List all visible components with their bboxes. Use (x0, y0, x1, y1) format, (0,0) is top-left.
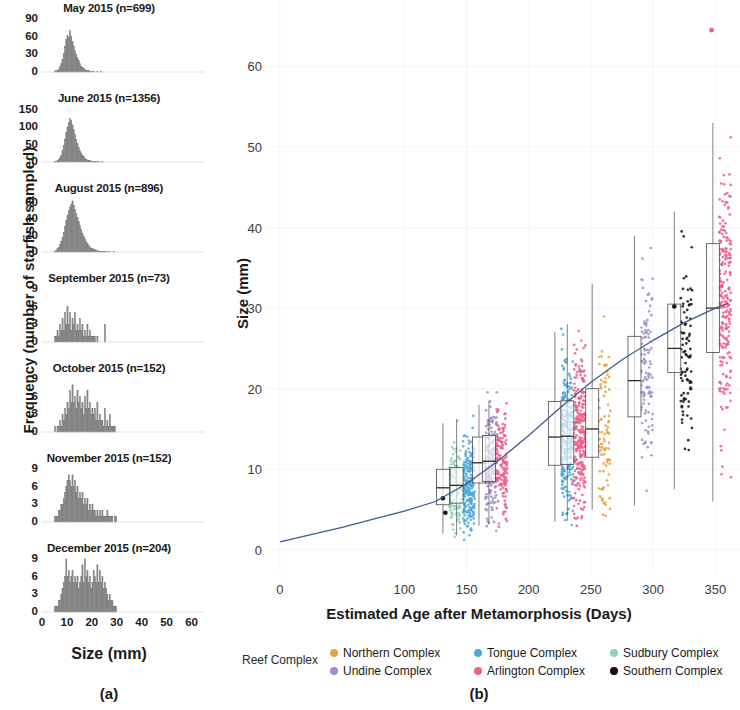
histogram-y-tick: 6 (32, 571, 38, 583)
histogram-y-tick: 3 (32, 408, 38, 420)
histogram-y-tick: 9 (32, 373, 38, 385)
histogram-y-tick: 60 (25, 31, 38, 43)
histogram-x-tick: 10 (61, 616, 74, 628)
histogram-y-tick: 20 (25, 230, 38, 242)
histogram-y-tick: 9 (32, 283, 38, 295)
histogram-bars (42, 466, 204, 524)
panel-b-x-axis-label: Estimated Age after Metamorphosis (Days) (218, 605, 740, 622)
histogram-y-ticks: 0369 (0, 556, 38, 612)
panel-b-y-tick: 20 (248, 381, 262, 396)
histogram-y-tick: 9 (32, 553, 38, 565)
legend-label: Tongue Complex (487, 646, 577, 660)
histogram-bars (42, 556, 204, 614)
histogram-y-tick: 3 (32, 498, 38, 510)
histogram-y-ticks: 0306090 (0, 16, 38, 72)
panel-b-y-tick: 60 (248, 59, 262, 74)
panel-b-x-tick: 200 (518, 582, 540, 597)
legend-label: Arlington Complex (487, 664, 585, 678)
histogram-block: November 2015 (n=152)0369 (0, 452, 218, 540)
legend-label: Northern Complex (343, 646, 440, 660)
panel-b-x-tick: 150 (456, 582, 478, 597)
panel-b-plot-area (266, 0, 740, 582)
panel-b-y-tick: 50 (248, 139, 262, 154)
panel-b-scatter-boxplot: Size (mm) 0102030405060 0100150200250300… (218, 0, 740, 710)
histogram-y-tick: 0 (32, 246, 38, 258)
histogram-block: September 2015 (n=73)0369 (0, 272, 218, 360)
histogram-bars (42, 286, 204, 344)
histogram-y-tick: 6 (32, 391, 38, 403)
histogram-block: May 2015 (n=699)0306090 (0, 2, 218, 90)
histogram-y-ticks: 050100150 (0, 106, 38, 162)
legend-swatch-icon (330, 649, 338, 657)
legend-swatch-icon (330, 667, 338, 675)
legend-title: Reef Complex (242, 653, 318, 667)
panel-b-x-tick: 0 (276, 582, 283, 597)
histogram-y-ticks: 0369 (0, 286, 38, 342)
histogram-y-tick: 0 (32, 66, 38, 78)
histogram-y-ticks: 0204060 (0, 196, 38, 252)
panel-b-x-tick: 250 (580, 582, 602, 597)
histogram-x-tick: 20 (85, 616, 98, 628)
histogram-y-tick: 6 (32, 301, 38, 313)
histogram-y-tick: 0 (32, 156, 38, 168)
legend-item-tongue-complex[interactable]: Tongue Complex (474, 646, 577, 660)
panel-b-x-ticks: 0100150200250300350 (266, 582, 740, 602)
histogram-bars (42, 106, 204, 164)
histogram-bars (42, 376, 204, 434)
legend-item-southern-complex[interactable]: Southern Complex (610, 664, 722, 678)
histogram-title: August 2015 (n=896) (0, 182, 218, 194)
histogram-x-tick: 60 (185, 616, 198, 628)
legend: Reef Complex Northern ComplexTongue Comp… (218, 638, 740, 686)
legend-item-sudbury-complex[interactable]: Sudbury Complex (610, 646, 718, 660)
figure-root: Frequency (number of starfish sampled) M… (0, 0, 740, 710)
panel-b-x-tick: 300 (642, 582, 664, 597)
panel-b-y-tick: 30 (248, 301, 262, 316)
legend-swatch-icon (474, 667, 482, 675)
histogram-y-tick: 0 (32, 426, 38, 438)
histogram-y-tick: 0 (32, 336, 38, 348)
histogram-x-tick: 30 (110, 616, 123, 628)
histogram-y-tick: 0 (32, 516, 38, 528)
legend-swatch-icon (610, 649, 618, 657)
histogram-y-tick: 3 (32, 318, 38, 330)
histogram-block: August 2015 (n=896)0204060 (0, 182, 218, 270)
histogram-y-tick: 50 (25, 139, 38, 151)
legend-swatch-icon (474, 649, 482, 657)
legend-item-northern-complex[interactable]: Northern Complex (330, 646, 440, 660)
panel-b-x-tick: 100 (393, 582, 415, 597)
panel-b-y-tick: 0 (255, 542, 262, 557)
histogram-y-tick: 6 (32, 481, 38, 493)
histogram-y-ticks: 0369 (0, 466, 38, 522)
panel-b-y-tick: 40 (248, 220, 262, 235)
histogram-y-tick: 9 (32, 463, 38, 475)
panel-a-histograms: Frequency (number of starfish sampled) M… (0, 0, 218, 710)
histogram-x-tick: 40 (135, 616, 148, 628)
legend-swatch-icon (610, 667, 618, 675)
legend-item-undine-complex[interactable]: Undine Complex (330, 664, 432, 678)
histogram-x-ticks: 0102030405060 (42, 616, 204, 632)
legend-label: Southern Complex (623, 664, 722, 678)
legend-item-arlington-complex[interactable]: Arlington Complex (474, 664, 585, 678)
histogram-y-tick: 150 (19, 104, 38, 116)
panel-b-y-ticks: 0102030405060 (218, 0, 262, 580)
panel-a-x-axis-label: Size (mm) (0, 645, 218, 663)
histogram-y-tick: 90 (25, 13, 38, 25)
legend-label: Sudbury Complex (623, 646, 718, 660)
histogram-bars (42, 196, 204, 254)
histogram-bars (42, 16, 204, 74)
histogram-y-tick: 0 (32, 606, 38, 618)
histogram-block: October 2015 (n=152)0369 (0, 362, 218, 450)
panel-b-tag: (b) (218, 685, 740, 702)
histogram-x-tick: 50 (160, 616, 173, 628)
trend-line (280, 303, 728, 541)
histogram-x-tick: 0 (39, 616, 45, 628)
histogram-y-tick: 30 (25, 48, 38, 60)
panel-b-y-tick: 10 (248, 462, 262, 477)
panel-a-tag: (a) (0, 685, 218, 702)
histogram-y-ticks: 0369 (0, 376, 38, 432)
histogram-y-tick: 40 (25, 213, 38, 225)
histogram-y-tick: 3 (32, 588, 38, 600)
legend-label: Undine Complex (343, 664, 432, 678)
histogram-y-tick: 60 (25, 197, 38, 209)
panel-b-x-tick: 350 (704, 582, 726, 597)
